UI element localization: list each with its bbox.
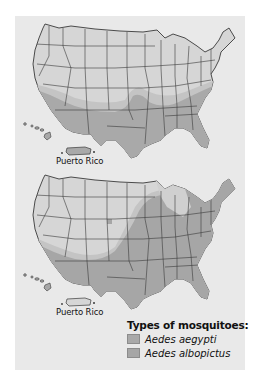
puerto-rico-inset bbox=[61, 298, 95, 306]
us-map-aegypti bbox=[15, 16, 245, 166]
figure-panel: Puerto Rico bbox=[15, 16, 245, 370]
legend-label: Aedes aegypti bbox=[145, 334, 216, 345]
legend: Types of mosquitoes: Aedes aegypti Aedes… bbox=[127, 319, 245, 359]
puerto-rico-label: Puerto Rico bbox=[56, 307, 103, 317]
legend-label: Aedes albopictus bbox=[145, 348, 230, 359]
us-map-albopictus bbox=[15, 167, 245, 317]
legend-item-aegypti: Aedes aegypti bbox=[127, 333, 245, 345]
hawaii-islands bbox=[24, 274, 51, 291]
swatch-aegypti bbox=[127, 334, 140, 344]
swatch-albopictus bbox=[127, 348, 140, 358]
map-aedes-aegypti: Puerto Rico bbox=[15, 16, 245, 166]
map-aedes-albopictus: Puerto Rico bbox=[15, 167, 245, 317]
hawaii-islands bbox=[24, 123, 51, 140]
legend-item-albopictus: Aedes albopictus bbox=[127, 347, 245, 359]
legend-title: Types of mosquitoes: bbox=[127, 319, 245, 331]
puerto-rico-label: Puerto Rico bbox=[56, 156, 103, 166]
puerto-rico-inset bbox=[61, 147, 95, 155]
